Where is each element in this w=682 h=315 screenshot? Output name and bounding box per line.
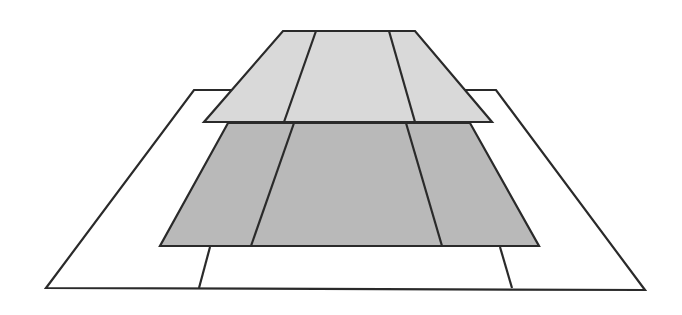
- top-plane-outline: [204, 31, 492, 122]
- diagram-canvas: [0, 0, 682, 315]
- layered-planes-diagram: [0, 0, 682, 315]
- top-plane: [204, 31, 492, 122]
